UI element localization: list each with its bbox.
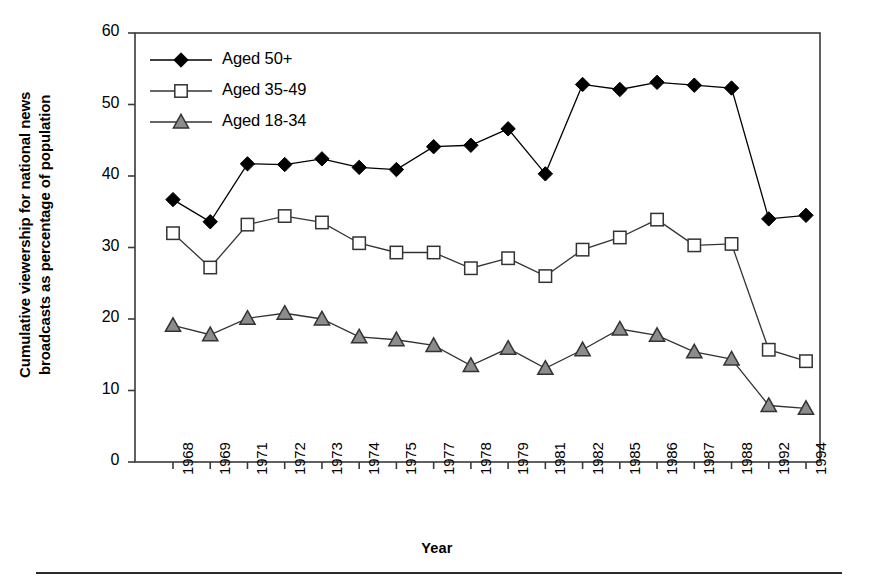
legend-item-label: Aged 35-49 [222,80,306,99]
data-point-marker [174,53,188,67]
legend-item-label: Aged 18-34 [222,111,306,130]
x-axis-title: Year [0,540,874,556]
footer-divider [36,572,842,574]
data-point-marker [175,85,187,97]
chart-figure: Cumulative viewership for national news … [0,0,874,586]
legend-item-label: Aged 50+ [222,49,292,68]
legend-symbols [0,0,874,586]
chart-legend: Aged 50+Aged 35-49Aged 18-34 [0,0,874,586]
data-point-marker [173,114,188,128]
